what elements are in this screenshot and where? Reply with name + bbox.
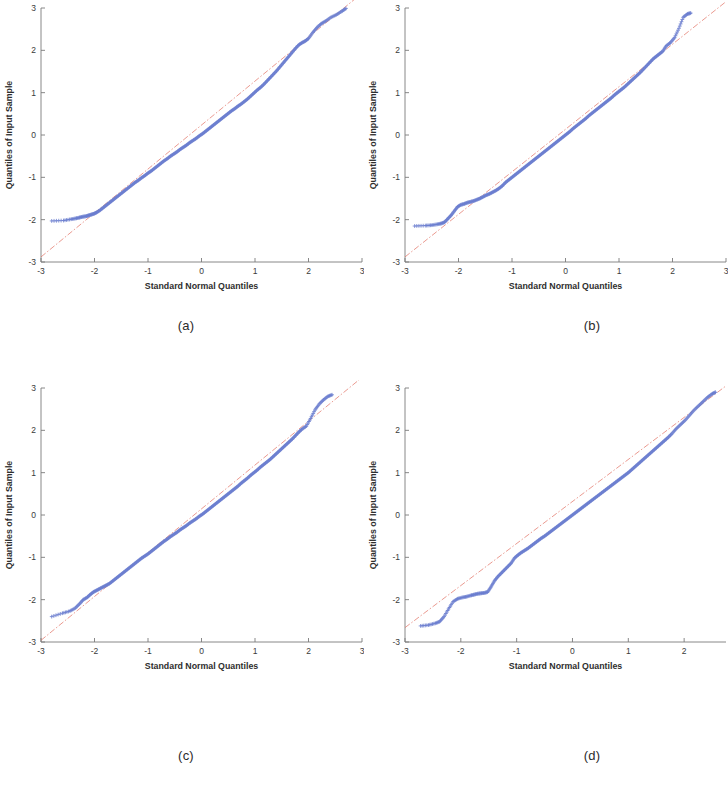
svg-text:-2: -2 <box>28 595 36 605</box>
data-markers <box>50 7 348 223</box>
svg-text:-2: -2 <box>91 646 99 656</box>
svg-text:Standard Normal Quantiles: Standard Normal Quantiles <box>145 661 259 671</box>
svg-text:0: 0 <box>395 130 400 140</box>
svg-text:-1: -1 <box>508 266 516 276</box>
svg-text:2: 2 <box>306 266 311 276</box>
panel-c: -3-2-10123-3-2-10123Standard Normal Quan… <box>0 380 364 760</box>
svg-text:Standard Normal Quantiles: Standard Normal Quantiles <box>145 281 259 291</box>
plot-a: -3-2-10123-3-2-10123Standard Normal Quan… <box>0 0 364 300</box>
svg-text:Quantiles of Input Sample: Quantiles of Input Sample <box>368 81 378 190</box>
svg-text:3: 3 <box>724 266 728 276</box>
svg-text:1: 1 <box>253 266 258 276</box>
svg-text:Quantiles of Input Sample: Quantiles of Input Sample <box>368 461 378 570</box>
svg-text:-3: -3 <box>401 266 409 276</box>
svg-text:0: 0 <box>31 130 36 140</box>
svg-text:-3: -3 <box>37 646 45 656</box>
svg-text:1: 1 <box>395 468 400 478</box>
svg-text:-1: -1 <box>513 646 521 656</box>
svg-text:1: 1 <box>626 646 631 656</box>
svg-text:2: 2 <box>395 45 400 55</box>
svg-text:-3: -3 <box>28 637 36 647</box>
svg-text:Quantiles of Input Sample: Quantiles of Input Sample <box>4 81 14 190</box>
svg-text:-2: -2 <box>455 266 463 276</box>
caption-b: (b) <box>364 318 728 333</box>
plot-b: -3-2-10123-3-2-10123Standard Normal Quan… <box>364 0 728 300</box>
plot-c: -3-2-10123-3-2-10123Standard Normal Quan… <box>0 380 364 680</box>
svg-text:1: 1 <box>253 646 258 656</box>
panel-d: -3-2-1012-3-2-10123Standard Normal Quant… <box>364 380 728 760</box>
svg-text:-3: -3 <box>392 257 400 267</box>
svg-text:0: 0 <box>31 510 36 520</box>
svg-text:-1: -1 <box>144 646 152 656</box>
svg-text:-1: -1 <box>28 172 36 182</box>
svg-text:Standard Normal Quantiles: Standard Normal Quantiles <box>509 661 623 671</box>
svg-text:2: 2 <box>670 266 675 276</box>
plot-d: -3-2-1012-3-2-10123Standard Normal Quant… <box>364 380 728 680</box>
svg-text:Standard Normal Quantiles: Standard Normal Quantiles <box>509 281 623 291</box>
svg-text:-1: -1 <box>392 552 400 562</box>
svg-text:0: 0 <box>570 646 575 656</box>
data-markers <box>413 11 693 228</box>
svg-text:2: 2 <box>682 646 687 656</box>
svg-text:0: 0 <box>395 510 400 520</box>
svg-text:2: 2 <box>31 45 36 55</box>
data-markers <box>50 393 334 619</box>
svg-text:-3: -3 <box>37 266 45 276</box>
svg-text:1: 1 <box>31 88 36 98</box>
svg-text:-2: -2 <box>457 646 465 656</box>
qq-plot-figure: -3-2-10123-3-2-10123Standard Normal Quan… <box>0 0 728 798</box>
svg-text:-1: -1 <box>392 172 400 182</box>
caption-c: (c) <box>0 748 368 763</box>
caption-d: (d) <box>364 748 728 763</box>
svg-text:2: 2 <box>306 646 311 656</box>
svg-text:1: 1 <box>617 266 622 276</box>
svg-text:-2: -2 <box>392 215 400 225</box>
svg-text:-1: -1 <box>28 552 36 562</box>
svg-text:-3: -3 <box>28 257 36 267</box>
svg-text:0: 0 <box>199 646 204 656</box>
svg-text:2: 2 <box>31 425 36 435</box>
svg-text:-3: -3 <box>401 646 409 656</box>
svg-text:3: 3 <box>31 383 36 393</box>
svg-text:-2: -2 <box>91 266 99 276</box>
svg-text:-3: -3 <box>392 637 400 647</box>
caption-a: (a) <box>0 318 368 333</box>
svg-text:3: 3 <box>395 3 400 13</box>
svg-text:-2: -2 <box>392 595 400 605</box>
svg-text:3: 3 <box>395 383 400 393</box>
panel-a: -3-2-10123-3-2-10123Standard Normal Quan… <box>0 0 364 380</box>
svg-text:0: 0 <box>563 266 568 276</box>
svg-text:2: 2 <box>395 425 400 435</box>
svg-text:1: 1 <box>31 468 36 478</box>
svg-text:-1: -1 <box>144 266 152 276</box>
svg-text:Quantiles of Input Sample: Quantiles of Input Sample <box>4 461 14 570</box>
svg-text:-2: -2 <box>28 215 36 225</box>
svg-text:0: 0 <box>199 266 204 276</box>
panel-b: -3-2-10123-3-2-10123Standard Normal Quan… <box>364 0 728 380</box>
svg-text:3: 3 <box>31 3 36 13</box>
svg-text:1: 1 <box>395 88 400 98</box>
